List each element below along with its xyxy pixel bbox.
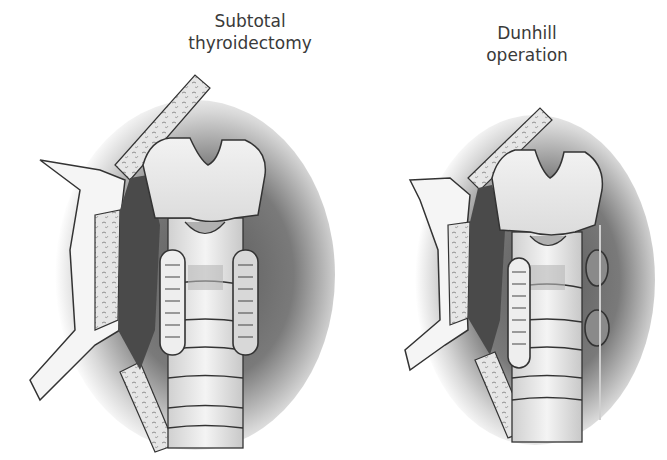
illustration-canvas: [0, 0, 667, 460]
parathyroid-gland-lower: [585, 310, 609, 346]
cricoid-band: [530, 265, 565, 290]
retracted-muscle-left: [448, 222, 470, 325]
thyroid-remnant-left: [160, 250, 185, 355]
thyroid-remnant-right: [233, 250, 258, 355]
thyroid-remnant-left: [508, 258, 530, 368]
retracted-muscle-left: [95, 210, 120, 330]
subtotal-thyroidectomy-illustration: [30, 75, 335, 452]
parathyroid-gland-upper: [586, 250, 608, 286]
cricoid-band: [188, 265, 223, 290]
dunhill-operation-illustration: [405, 108, 655, 445]
